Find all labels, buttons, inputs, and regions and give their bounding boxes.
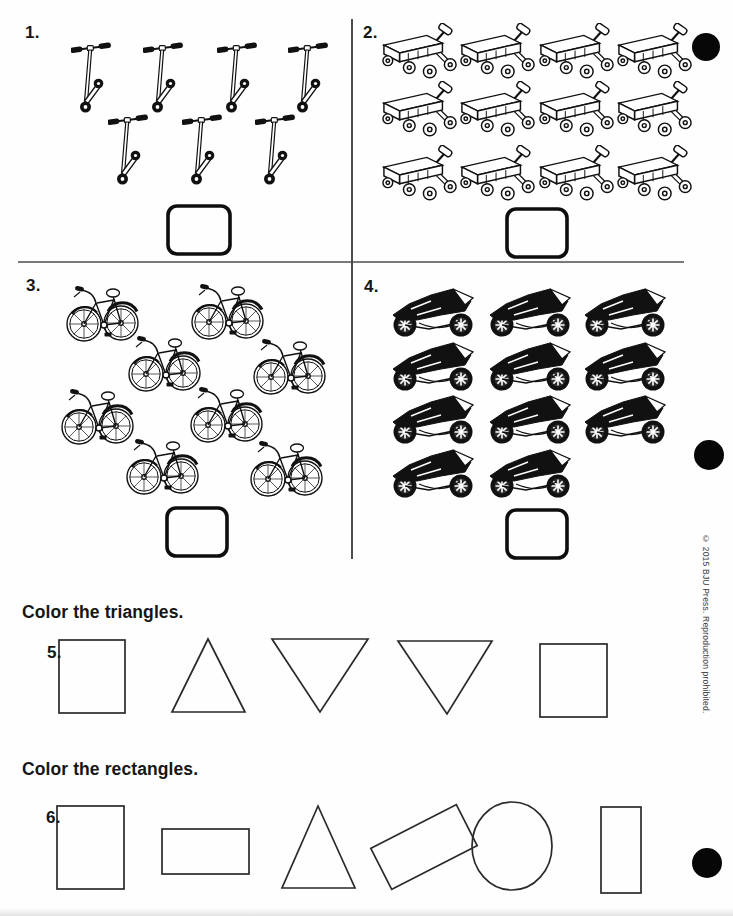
scooter-icon <box>287 42 329 112</box>
shape-square[interactable] <box>59 640 125 713</box>
wagon-icon <box>383 144 456 199</box>
wagon-icon <box>461 22 534 77</box>
wagon-group <box>383 22 691 199</box>
wagon-icon <box>383 22 456 77</box>
scooter-icon <box>181 114 223 184</box>
answer-box-3[interactable] <box>167 508 227 556</box>
answer-box-1[interactable] <box>168 206 230 254</box>
bicycle-icon <box>129 335 200 391</box>
instruction-color-rectangles: Color the rectangles. <box>22 759 198 780</box>
registration-dots <box>692 33 724 878</box>
registration-dot-2 <box>694 440 724 470</box>
motorcycle-icon <box>490 396 570 444</box>
shape-square[interactable] <box>540 644 607 717</box>
problem-3-number: 3. <box>26 276 41 296</box>
motorcycle-group <box>393 289 665 498</box>
scooter-icon <box>254 114 296 184</box>
shape-triangle-up[interactable] <box>172 639 245 712</box>
wagon-icon <box>540 80 613 135</box>
scooter-icon <box>107 114 149 184</box>
scooter-icon <box>70 42 112 112</box>
motorcycle-icon <box>490 450 570 498</box>
shape-rectangle-wide[interactable] <box>162 829 249 874</box>
shape-rectangle-narrow[interactable] <box>601 807 641 893</box>
shape-rectangle-rotated[interactable] <box>371 805 477 890</box>
problem-2-number: 2. <box>363 23 378 43</box>
bicycle-icon <box>62 388 133 444</box>
problem-5-number: 5. <box>47 643 62 663</box>
bicycle-icon <box>191 386 262 442</box>
shape-triangle-down[interactable] <box>272 639 368 712</box>
bicycle-icon <box>251 440 322 496</box>
rectangles-row <box>57 802 641 893</box>
bicycle-icon <box>192 283 263 339</box>
wagon-icon <box>618 144 691 199</box>
instruction-color-triangles: Color the triangles. <box>22 602 183 623</box>
shape-circle[interactable] <box>472 802 552 890</box>
wagon-icon <box>540 22 613 77</box>
bicycle-icon <box>254 338 325 394</box>
motorcycle-icon <box>490 289 570 337</box>
motorcycle-icon <box>585 343 665 391</box>
wagon-icon <box>540 144 613 199</box>
motorcycle-icon <box>393 289 473 337</box>
motorcycle-icon <box>585 289 665 337</box>
motorcycle-icon <box>490 343 570 391</box>
worksheet-page: 1. 2. 3. 4. 5. 6. Color the triangles. C… <box>0 0 733 916</box>
answer-box-4[interactable] <box>507 510 567 558</box>
problem-6-number: 6. <box>46 808 61 828</box>
wagon-icon <box>461 144 534 199</box>
motorcycle-icon <box>393 343 473 391</box>
bicycle-icon <box>67 285 138 341</box>
motorcycle-icon <box>393 450 473 498</box>
wagon-icon <box>461 80 534 135</box>
triangles-row <box>59 639 607 717</box>
shape-triangle-down[interactable] <box>398 641 492 714</box>
scooter-icon <box>216 42 258 112</box>
motorcycle-icon <box>393 396 473 444</box>
scooter-group <box>70 42 329 184</box>
motorcycle-icon <box>585 396 665 444</box>
problem-1-number: 1. <box>25 23 40 43</box>
shape-rectangle-tall[interactable] <box>57 806 124 889</box>
shape-triangle-up[interactable] <box>282 806 355 888</box>
bicycle-icon <box>127 438 198 494</box>
wagon-icon <box>618 80 691 135</box>
bicycle-group <box>62 283 325 496</box>
scooter-icon <box>142 42 184 112</box>
answer-box-2[interactable] <box>507 209 567 257</box>
wagon-icon <box>383 80 456 135</box>
registration-dot-1 <box>692 33 720 61</box>
problem-4-number: 4. <box>364 277 379 297</box>
registration-dot-3 <box>692 848 722 878</box>
wagon-icon <box>618 22 691 77</box>
copyright-notice: © 2015 BJU Press. Reproduction prohibite… <box>701 534 711 714</box>
